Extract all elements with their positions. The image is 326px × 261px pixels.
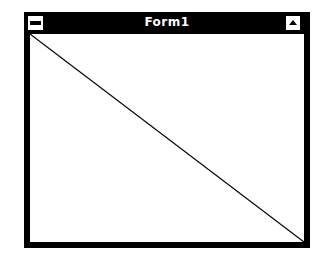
diagonal-line-drawing [30,34,304,242]
maximize-button[interactable] [286,16,300,30]
client-area[interactable] [30,34,304,242]
maximize-triangle-icon [289,20,297,25]
form1-window: Form1 [24,12,310,248]
window-title: Form1 [24,15,310,29]
title-bar[interactable]: Form1 [24,12,310,34]
